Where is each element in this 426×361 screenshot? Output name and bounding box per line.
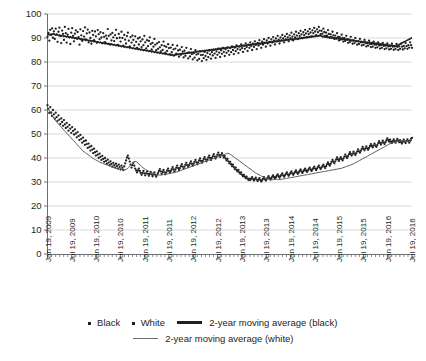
legend-line-icon-ma-white xyxy=(133,338,158,339)
svg-text:70: 70 xyxy=(31,80,42,91)
legend-line-icon-ma-black xyxy=(177,321,202,323)
svg-text:Jul 19, 2014: Jul 19, 2014 xyxy=(311,218,320,262)
legend-label-ma-white: 2-year moving average (white) xyxy=(165,333,293,344)
svg-text:90: 90 xyxy=(31,32,42,43)
svg-text:Jan 19, 2013: Jan 19, 2013 xyxy=(238,215,247,262)
svg-text:Jul 19, 2009: Jul 19, 2009 xyxy=(68,218,77,262)
svg-text:Jul 19, 2011: Jul 19, 2011 xyxy=(165,218,174,262)
legend-label-ma-black: 2-year moving average (black) xyxy=(209,317,337,328)
legend-entry-ma-black: 2-year moving average (black) xyxy=(177,318,338,329)
svg-text:Jan 19, 2012: Jan 19, 2012 xyxy=(189,215,198,262)
svg-text:Jan 19, 2011: Jan 19, 2011 xyxy=(141,216,150,262)
svg-text:Jul 19, 2012: Jul 19, 2012 xyxy=(214,218,223,262)
svg-text:Jan 19, 2010: Jan 19, 2010 xyxy=(92,215,101,262)
svg-text:30: 30 xyxy=(31,176,42,187)
svg-text:100: 100 xyxy=(26,8,42,19)
svg-text:Jul 19, 2013: Jul 19, 2013 xyxy=(262,218,271,262)
legend-label-black: Black xyxy=(97,317,120,328)
svg-text:Jan 19, 2014: Jan 19, 2014 xyxy=(287,215,296,262)
svg-text:50: 50 xyxy=(31,128,42,139)
legend-entry-white: White xyxy=(132,318,165,329)
svg-text:0: 0 xyxy=(36,248,41,259)
moving-average-line-white xyxy=(48,108,413,180)
series-points-white xyxy=(46,104,413,183)
chart-legend-row-2: 2-year moving average (white) xyxy=(0,334,426,345)
chart-container: 0102030405060708090100 Jan 19, 2009Jul 1… xyxy=(0,0,426,361)
svg-text:20: 20 xyxy=(31,200,42,211)
chart-plot-area: 0102030405060708090100 Jan 19, 2009Jul 1… xyxy=(0,0,426,361)
legend-dot-icon-black xyxy=(88,322,91,325)
svg-text:40: 40 xyxy=(31,152,42,163)
svg-text:Jul 19, 2016: Jul 19, 2016 xyxy=(408,218,417,262)
svg-text:10: 10 xyxy=(31,224,42,235)
legend-dot-icon-white xyxy=(132,322,135,325)
svg-text:60: 60 xyxy=(31,104,42,115)
chart-legend-row-1: Black White 2-year moving average (black… xyxy=(0,318,426,329)
svg-text:Jan 19, 2016: Jan 19, 2016 xyxy=(384,215,393,262)
legend-label-white: White xyxy=(141,317,165,328)
legend-entry-black: Black xyxy=(88,318,120,329)
gridlines xyxy=(48,14,413,230)
svg-text:Jan 19, 2009: Jan 19, 2009 xyxy=(44,215,53,262)
svg-text:Jul 19, 2015: Jul 19, 2015 xyxy=(359,218,368,262)
svg-text:80: 80 xyxy=(31,56,42,67)
series-points-black xyxy=(46,26,413,62)
svg-text:Jan 19, 2015: Jan 19, 2015 xyxy=(335,215,344,262)
svg-text:Jul 19, 2010: Jul 19, 2010 xyxy=(116,218,125,262)
legend-entry-ma-white: 2-year moving average (white) xyxy=(133,334,294,345)
y-axis-tick-labels: 0102030405060708090100 xyxy=(26,8,42,259)
